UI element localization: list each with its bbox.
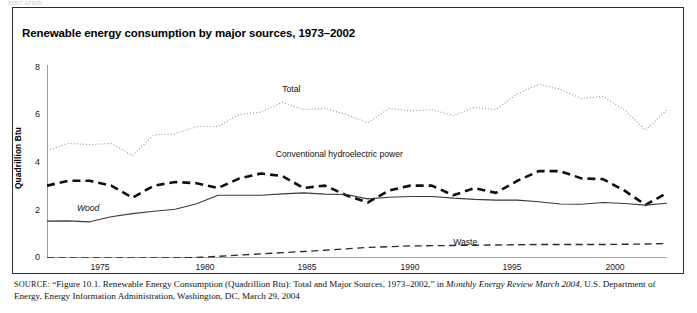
source-note: SOURCE: “Figure 10.1. Renewable Energy C…	[14, 279, 682, 302]
series-line-wood	[47, 193, 667, 222]
series-label-total: Total	[282, 84, 300, 94]
series-line-waste	[47, 244, 667, 258]
y-tick-label-4: 4	[22, 157, 40, 167]
figure-title: Renewable energy consumption by major so…	[22, 27, 355, 39]
series-line-conventional-hydroelectric-power	[47, 171, 667, 205]
y-tick-label-6: 6	[22, 109, 40, 119]
line-chart-svg	[47, 65, 667, 258]
y-tick-label-2: 2	[22, 205, 40, 215]
source-text-part-1: “Figure 10.1. Renewable Energy Consumpti…	[50, 279, 446, 289]
y-tick-label-8: 8	[22, 62, 40, 72]
series-line-total	[47, 84, 667, 155]
x-tick-label-1995: 1995	[492, 262, 532, 272]
x-tick-label-1980: 1980	[185, 262, 225, 272]
series-label-waste: Waste	[453, 237, 477, 247]
series-label-conventional-hydroelectric-power: Conventional hydroelectric power	[276, 149, 403, 159]
source-label: SOURCE:	[14, 280, 50, 289]
x-tick-label-1990: 1990	[390, 262, 430, 272]
x-tick-label-2000: 2000	[595, 262, 635, 272]
y-tick-label-0: 0	[22, 252, 40, 262]
cut-off-header-text: EDUCATION	[8, 0, 128, 6]
source-publication-title: Monthly Energy Review March 2004	[446, 279, 580, 289]
source-text-part-2: ,	[580, 279, 582, 289]
x-tick-label-1975: 1975	[80, 262, 120, 272]
series-label-wood: Wood	[77, 203, 99, 213]
chart-plot-area	[47, 65, 667, 258]
figure-page: EDUCATION Renewable energy consumption b…	[0, 0, 697, 313]
x-tick-label-1985: 1985	[287, 262, 327, 272]
